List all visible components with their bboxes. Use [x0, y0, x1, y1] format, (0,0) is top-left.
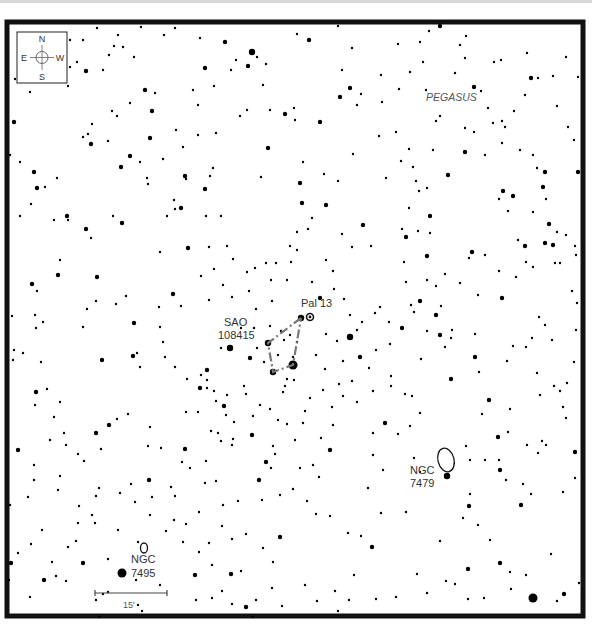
- star: [220, 215, 222, 217]
- star: [286, 423, 288, 425]
- star: [405, 281, 407, 283]
- star: [98, 616, 100, 618]
- star: [331, 406, 333, 408]
- star: [375, 598, 377, 600]
- star: [397, 433, 399, 435]
- star: [269, 325, 271, 327]
- star: [33, 464, 35, 466]
- star: [426, 330, 428, 332]
- star: [464, 57, 466, 59]
- star: [206, 387, 208, 389]
- star: [56, 273, 60, 277]
- star: [519, 503, 523, 507]
- star: [226, 394, 228, 396]
- star: [336, 340, 338, 342]
- star: [122, 46, 124, 48]
- star: [525, 261, 527, 263]
- star: [147, 478, 151, 482]
- star: [463, 150, 467, 154]
- star: [41, 529, 43, 531]
- star: [254, 267, 256, 269]
- star: [283, 339, 285, 341]
- star: [244, 605, 248, 609]
- star: [232, 438, 234, 440]
- star: [469, 493, 471, 495]
- star: [372, 454, 374, 456]
- star: [380, 74, 382, 76]
- star: [250, 433, 254, 437]
- star: [513, 110, 515, 112]
- star: [536, 372, 538, 374]
- star: [249, 49, 255, 55]
- star-chart: N S E W PEGASUS Pal 13 SAO 108415 NGC 74…: [0, 0, 592, 628]
- star: [337, 610, 339, 612]
- star: [343, 298, 345, 300]
- pal13-marker[interactable]: [307, 314, 314, 321]
- star: [318, 120, 322, 124]
- star: [334, 590, 336, 592]
- star: [333, 288, 335, 290]
- star: [417, 230, 419, 232]
- star: [498, 270, 500, 272]
- star: [127, 413, 129, 415]
- star: [501, 120, 503, 122]
- star: [239, 115, 241, 117]
- star: [312, 464, 314, 466]
- star: [174, 495, 176, 497]
- star: [96, 27, 98, 29]
- compass-east: E: [21, 53, 27, 63]
- star: [231, 603, 233, 605]
- ngc7495-outline[interactable]: [141, 543, 148, 553]
- star: [211, 597, 213, 599]
- star: [426, 592, 428, 594]
- star: [29, 596, 31, 598]
- star: [262, 547, 264, 549]
- star: [473, 131, 475, 133]
- star: [556, 105, 558, 107]
- star: [225, 414, 227, 416]
- star: [274, 453, 276, 455]
- star: [269, 408, 271, 410]
- star: [413, 311, 415, 313]
- star: [524, 94, 526, 96]
- star: [351, 246, 353, 248]
- star: [410, 304, 412, 306]
- star: [129, 102, 131, 104]
- star: [82, 136, 84, 138]
- star: [398, 88, 400, 90]
- star: [11, 315, 13, 317]
- star: [420, 358, 422, 360]
- star: [309, 397, 311, 399]
- star: [137, 541, 139, 543]
- star: [185, 523, 187, 525]
- star: [59, 259, 61, 261]
- star: [9, 154, 11, 156]
- star: [57, 489, 59, 491]
- star: [170, 486, 172, 488]
- star: [530, 493, 532, 495]
- star: [100, 358, 104, 362]
- star: [192, 89, 194, 91]
- star: [385, 177, 387, 179]
- star: [465, 35, 467, 37]
- star: [95, 300, 97, 302]
- star: [360, 93, 362, 95]
- star: [200, 275, 202, 277]
- star: [117, 34, 119, 36]
- star: [271, 300, 273, 302]
- star: [263, 361, 265, 363]
- star: [215, 400, 217, 402]
- star: [197, 104, 199, 106]
- star: [179, 206, 183, 210]
- star: [294, 119, 296, 121]
- star: [171, 292, 175, 296]
- star: [78, 505, 80, 507]
- star: [318, 476, 320, 478]
- star: [226, 245, 228, 247]
- star: [91, 514, 93, 516]
- star: [567, 126, 569, 128]
- star: [203, 66, 207, 70]
- ngc7479-outline[interactable]: [435, 446, 457, 473]
- star: [30, 543, 32, 545]
- star: [203, 187, 207, 191]
